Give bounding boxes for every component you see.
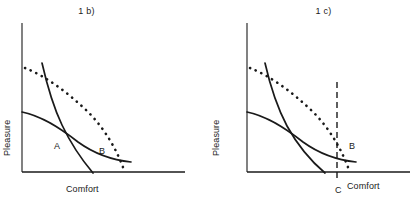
- point-label-c-1c: C: [335, 185, 342, 195]
- shallow-solid-curve-1b: [22, 112, 131, 162]
- x-axis-label-1c: Comfort: [347, 181, 380, 191]
- y-axis-label-1b: Pleasure: [2, 120, 12, 156]
- point-label-a-1b: A: [54, 141, 60, 151]
- y-axis-label-1c: Pleasure: [211, 120, 221, 156]
- figure-root: 1 b) Pleasure Comfort A B 1 c): [0, 0, 418, 204]
- chart-panel-1b: 1 b) Pleasure Comfort A B: [0, 0, 209, 204]
- plot-area-1b: [0, 0, 209, 204]
- x-axis-label-1b: Comfort: [66, 184, 99, 194]
- point-label-b-1c: B: [349, 141, 355, 151]
- steep-solid-curve-1c: [265, 63, 325, 173]
- steep-solid-curve-1b: [42, 63, 93, 173]
- dotted-curve-1b: [25, 68, 124, 170]
- point-label-b-1b: B: [99, 146, 105, 156]
- plot-area-1c: [209, 0, 418, 204]
- chart-panel-1c: 1 c) Pleasure Comfort B C: [209, 0, 418, 204]
- shallow-solid-curve-1c: [247, 112, 356, 162]
- dotted-curve-1c: [250, 68, 349, 170]
